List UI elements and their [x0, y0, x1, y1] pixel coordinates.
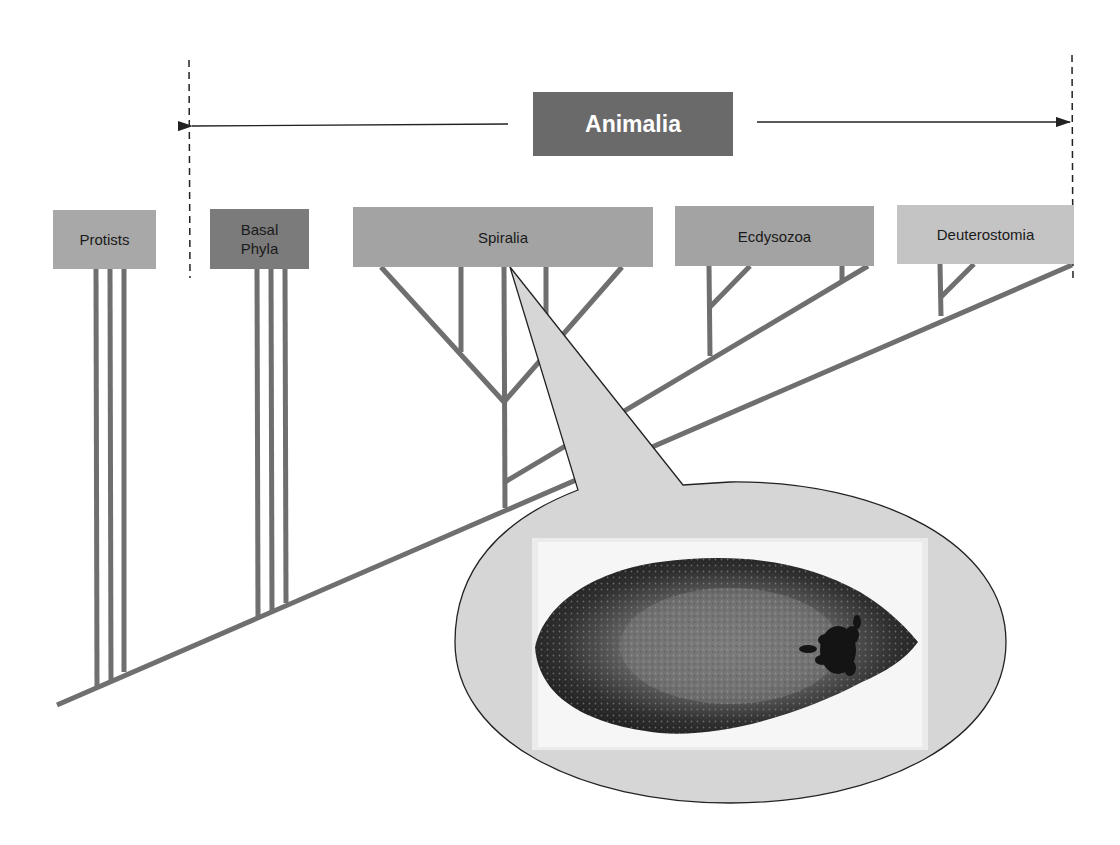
- clade-box-protists: Protists: [53, 210, 156, 269]
- clade-label-protists: Protists: [79, 230, 129, 249]
- clade-box-deuterostomia: Deuterostomia: [897, 205, 1074, 264]
- animalia-label-box: Animalia: [533, 92, 733, 156]
- flatworm-photo: [532, 538, 928, 750]
- clade-box-basal-phyla: Basal Phyla: [210, 209, 309, 269]
- phylogeny-diagram: Animalia Protists Basal Phyla Spiralia E…: [0, 0, 1120, 845]
- clade-label-spiralia: Spiralia: [478, 228, 528, 247]
- clade-label-deuterostomia: Deuterostomia: [937, 225, 1035, 244]
- clade-label-basal-phyla-line1: Basal: [241, 220, 279, 239]
- clade-label-ecdysozoa: Ecdysozoa: [738, 227, 811, 246]
- clade-box-ecdysozoa: Ecdysozoa: [675, 206, 874, 266]
- animalia-label: Animalia: [585, 111, 681, 138]
- span-arrow-left: [192, 124, 508, 126]
- clade-label-basal-phyla-line2: Phyla: [241, 239, 279, 258]
- animalia-left-boundary: [189, 60, 190, 278]
- clade-box-spiralia: Spiralia: [353, 207, 653, 267]
